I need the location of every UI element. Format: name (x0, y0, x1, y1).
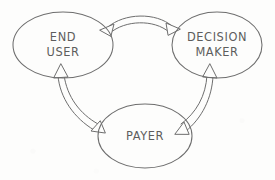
edge-shaft-inner-top (110, 23, 169, 33)
arrowhead-to-end-user-lower (54, 64, 68, 78)
payer-label-line1: PAYER (126, 129, 164, 143)
edge-shaft-inner-right (181, 75, 207, 124)
edge-end-user-decision-maker[interactable] (100, 16, 180, 36)
edge-shaft-outer-left (58, 76, 94, 130)
edge-shaft-outer-top (108, 16, 172, 27)
arrowhead-to-end-user (100, 24, 114, 36)
end-user-label-line2: USER (46, 45, 79, 59)
decision-maker-label-line1: DECISION (187, 30, 247, 44)
edge-shaft-inner-left (64, 75, 98, 124)
node-decision-maker[interactable]: DECISION MAKER (172, 12, 262, 78)
sketch-diagram: END USER DECISION MAKER PAYER (0, 0, 275, 180)
end-user-label-line1: END (50, 30, 76, 44)
diagram-canvas: END USER DECISION MAKER PAYER (0, 0, 275, 180)
decision-maker-label-line2: MAKER (195, 45, 238, 59)
node-payer[interactable]: PAYER (98, 104, 192, 168)
arrowhead-to-decision-maker-lower (203, 64, 217, 78)
edge-end-user-payer[interactable] (54, 64, 105, 133)
